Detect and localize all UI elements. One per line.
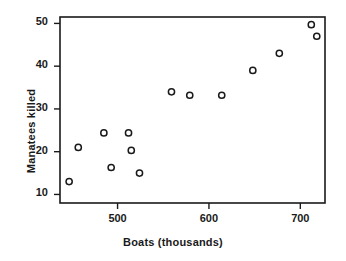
data-point — [276, 50, 282, 56]
y-tick-label: 20 — [22, 144, 48, 156]
data-point — [314, 33, 320, 39]
data-point — [136, 170, 142, 176]
data-point — [219, 92, 225, 98]
x-tick-label: 600 — [189, 212, 229, 224]
data-point — [75, 144, 81, 150]
data-point — [101, 130, 107, 136]
x-tick-label: 500 — [98, 212, 138, 224]
data-point — [128, 147, 134, 153]
data-point — [66, 179, 72, 185]
y-tick-label: 40 — [22, 58, 48, 70]
data-point — [308, 22, 314, 28]
data-point — [125, 130, 131, 136]
plot-frame — [60, 17, 325, 203]
x-tick-label: 700 — [280, 212, 320, 224]
y-tick-label: 50 — [22, 15, 48, 27]
data-point — [108, 164, 114, 170]
y-tick-label: 30 — [22, 101, 48, 113]
scatter-chart: Manatees killed Boats (thousands) 102030… — [0, 0, 346, 261]
data-point — [250, 67, 256, 73]
data-point — [168, 89, 174, 95]
data-point — [187, 92, 193, 98]
y-tick-label: 10 — [22, 186, 48, 198]
